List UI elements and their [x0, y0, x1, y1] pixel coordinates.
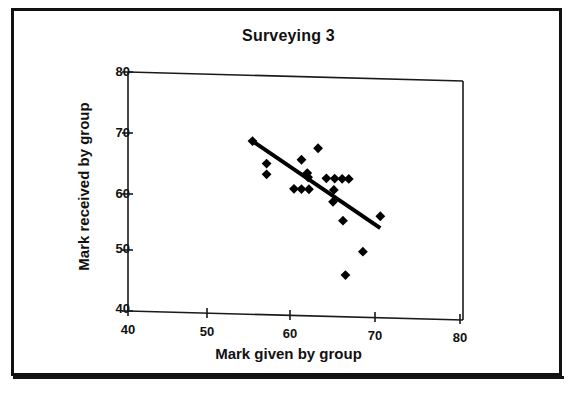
data-point	[321, 173, 331, 183]
data-series-layer	[248, 136, 386, 280]
data-point	[297, 155, 307, 165]
plot-canvas	[0, 0, 577, 403]
data-point	[313, 143, 323, 153]
axis-frame	[128, 72, 463, 320]
data-point	[262, 159, 272, 169]
trendline	[253, 141, 381, 228]
figure-screenshot: Surveying 3 80 70 60 50 40 40 50 60 70 8…	[0, 0, 577, 403]
data-point	[262, 169, 272, 179]
data-point	[358, 247, 368, 257]
scatter-plot: Surveying 3 80 70 60 50 40 40 50 60 70 8…	[0, 0, 577, 403]
data-point	[375, 211, 385, 221]
data-point	[338, 216, 348, 226]
data-point	[341, 270, 351, 280]
data-point	[304, 184, 314, 194]
data-point	[344, 174, 354, 184]
